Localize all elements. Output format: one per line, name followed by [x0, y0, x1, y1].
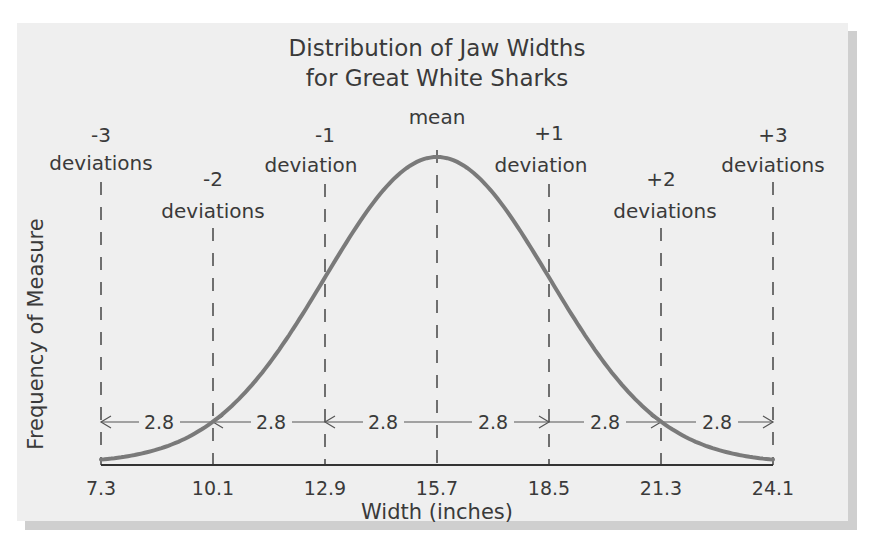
deviation-number-plus-2: +2 [646, 167, 675, 191]
interval-label-1: 2.8 [144, 411, 174, 433]
x-tick-label: 18.5 [528, 477, 570, 499]
y-axis-label: Frequency of Measure [24, 218, 48, 449]
normal-distribution-chart: Distribution of Jaw Widths for Great Whi… [0, 0, 874, 549]
deviation-number-minus-1: -1 [315, 123, 335, 147]
deviation-text-minus-1: deviation [265, 153, 358, 177]
deviation-text-minus-3: deviations [49, 151, 152, 175]
chart-title-line-2: for Great White Sharks [306, 65, 569, 91]
interval-label-2: 2.8 [256, 411, 286, 433]
deviation-number-minus-2: -2 [203, 167, 223, 191]
deviation-text-minus-2: deviations [161, 199, 264, 223]
deviation-text-plus-3: deviations [721, 153, 824, 177]
interval-label-4: 2.8 [478, 411, 508, 433]
deviation-dashed-lines [101, 150, 773, 465]
mean-label: mean [409, 105, 466, 129]
x-tick-label: 15.7 [416, 477, 458, 499]
x-tick-label: 24.1 [752, 477, 794, 499]
x-axis-label: Width (inches) [361, 500, 513, 524]
deviation-text-plus-2: deviations [613, 199, 716, 223]
deviation-number-plus-3: +3 [758, 123, 787, 147]
deviation-number-plus-1: +1 [534, 121, 563, 145]
chart-title-line-1: Distribution of Jaw Widths [289, 35, 586, 61]
x-tick-label: 12.9 [304, 477, 346, 499]
deviation-text-plus-1: deviation [495, 153, 588, 177]
interval-label-5: 2.8 [590, 411, 620, 433]
deviation-number-minus-3: -3 [91, 123, 111, 147]
x-tick-label: 7.3 [86, 477, 116, 499]
interval-label-6: 2.8 [702, 411, 732, 433]
x-tick-label: 21.3 [640, 477, 682, 499]
x-tick-label: 10.1 [192, 477, 234, 499]
interval-label-3: 2.8 [368, 411, 398, 433]
